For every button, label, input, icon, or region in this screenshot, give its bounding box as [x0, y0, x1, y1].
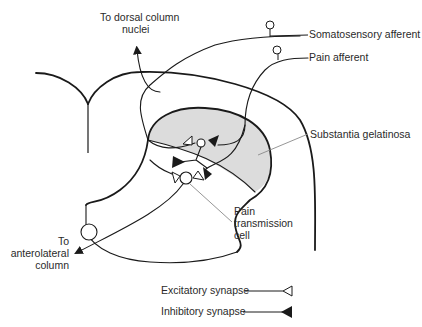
inhibitory-synapse-right [203, 167, 212, 180]
excitatory-synapse-tcell-left [172, 172, 180, 183]
legend-inhibitory-synapse-icon [281, 306, 292, 318]
pain-transmission-cell [180, 172, 192, 184]
label-anterolateral-2: anterolateral [11, 247, 69, 259]
somatosensory-to-tcell [150, 160, 172, 174]
label-pain-transmission-3: cell [234, 229, 250, 241]
somatosensory-ganglion-cell [266, 21, 274, 29]
label-pain-afferent: Pain afferent [309, 51, 368, 63]
label-somatosensory-afferent: Somatosensory afferent [309, 28, 420, 40]
label-pain-transmission-1: Pain [234, 205, 255, 217]
legend-excitatory-label: Excitatory synapse [161, 284, 249, 296]
pain-afferent-ganglion-cell [273, 46, 281, 54]
label-substantia-gelatinosa: Substantia gelatinosa [310, 128, 411, 140]
label-anterolateral-1: To [58, 235, 69, 247]
gray-matter-outline [86, 205, 237, 263]
label-pain-transmission-2: transmission [234, 217, 293, 229]
somatosensory-leader [270, 35, 308, 36]
inhibitory-synapse-left [172, 156, 185, 168]
legend: Excitatory synapse Inhibitory synapse [161, 284, 292, 318]
label-dorsal-column-2: nuclei [122, 23, 149, 35]
dorsal-horn-diagram: To dorsal column nuclei Somatosensory af… [0, 0, 422, 327]
substantia-gelatinosa-region [148, 108, 271, 192]
legend-inhibitory-label: Inhibitory synapse [161, 305, 246, 317]
ventral-neuron [81, 224, 97, 240]
pain-transmission-leader [190, 184, 232, 222]
label-anterolateral-3: column [35, 259, 69, 271]
label-dorsal-column-1: To dorsal column [100, 11, 180, 23]
excitatory-synapse-tcell-right [193, 171, 204, 180]
inhibitory-interneuron [197, 139, 205, 147]
dorsal-horn-left-edge [86, 140, 148, 205]
legend-excitatory-synapse-icon [283, 286, 292, 296]
spinal-cord-outline-left [36, 73, 88, 104]
